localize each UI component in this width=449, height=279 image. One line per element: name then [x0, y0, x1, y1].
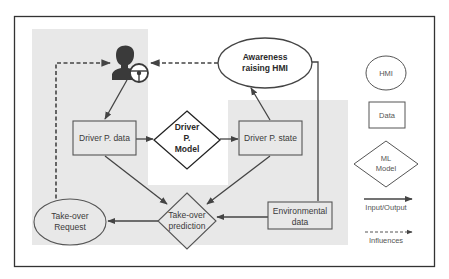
driver-p-data-label: Driver P. data [79, 133, 130, 143]
driver-p-model-label-line3: Model [175, 144, 200, 154]
legend-ml-model-label-line1: ML [381, 154, 391, 163]
driver-p-state-node: Driver P. state [239, 121, 302, 155]
driver-p-state-label: Driver P. state [244, 133, 297, 143]
awareness-hmi-label-line1: Awareness [243, 52, 288, 62]
environmental-data-node: Environmental data [268, 202, 332, 229]
legend-data: Data [369, 102, 405, 128]
driver-p-model-label-line2: P. [184, 133, 191, 143]
driver-p-model-label-line1: Driver [175, 122, 200, 132]
driver-p-data-node: Driver P. data [73, 121, 136, 155]
legend-ml-model-label-line2: Model [376, 164, 397, 173]
steering-wheel-icon [130, 64, 148, 82]
legend-input-output-label: Input/Output [365, 203, 407, 212]
diagram-canvas: Awareness raising HMI Driver P. data Dri… [0, 0, 449, 279]
awareness-raising-hmi-node: Awareness raising HMI [218, 38, 312, 88]
legend-hmi: HMI [366, 56, 406, 90]
legend-data-label: Data [379, 111, 396, 120]
takeover-request-label-line1: Take-over [51, 211, 88, 221]
legend-hmi-label: HMI [379, 69, 393, 78]
environmental-data-label-line2: data [292, 217, 309, 227]
legend-influences-label: Influences [369, 236, 403, 245]
takeover-request-node: Take-over Request [34, 199, 106, 245]
environmental-data-label-line1: Environmental [273, 206, 327, 216]
takeover-request-label-line2: Request [54, 222, 86, 232]
takeover-prediction-label-line2: prediction [169, 221, 206, 231]
awareness-hmi-label-line2: raising HMI [242, 63, 288, 73]
takeover-prediction-label-line1: Take-over [168, 210, 205, 220]
